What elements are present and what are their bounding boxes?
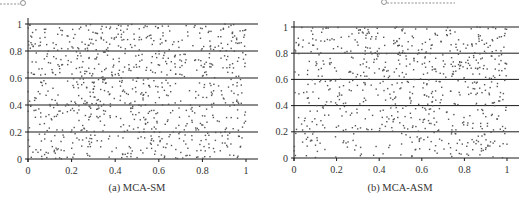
- data-point: [201, 48, 202, 49]
- data-point: [491, 115, 492, 116]
- data-point: [374, 72, 375, 73]
- data-point: [480, 58, 481, 59]
- data-point: [185, 54, 186, 55]
- data-point: [56, 116, 57, 117]
- data-point: [106, 49, 107, 50]
- data-point: [461, 62, 462, 63]
- data-point: [121, 39, 122, 40]
- data-point: [236, 99, 237, 100]
- data-point: [127, 39, 128, 40]
- data-point: [149, 35, 150, 36]
- data-point: [150, 38, 151, 39]
- data-point: [370, 38, 371, 39]
- data-point: [242, 52, 243, 53]
- data-point: [126, 156, 127, 157]
- data-point: [205, 26, 206, 27]
- data-point: [226, 127, 227, 128]
- data-point: [435, 100, 436, 101]
- data-point: [236, 85, 237, 86]
- data-point: [156, 121, 157, 122]
- data-point: [396, 107, 397, 108]
- data-point: [29, 127, 30, 128]
- data-point: [78, 48, 79, 49]
- data-point: [492, 40, 493, 41]
- data-point: [419, 138, 420, 139]
- data-point: [135, 87, 136, 88]
- data-point: [109, 115, 110, 116]
- data-point: [89, 143, 90, 144]
- data-point: [413, 58, 414, 59]
- data-point: [150, 70, 151, 71]
- data-point: [294, 150, 295, 151]
- data-point: [401, 45, 402, 46]
- data-point: [72, 85, 73, 86]
- data-point: [424, 108, 425, 109]
- data-point: [443, 73, 444, 74]
- data-point: [171, 145, 172, 146]
- data-point: [175, 74, 176, 75]
- data-point: [493, 142, 494, 143]
- data-point: [111, 37, 112, 38]
- data-point: [214, 77, 215, 78]
- data-point: [55, 148, 56, 149]
- data-point: [394, 28, 395, 29]
- data-point: [455, 44, 456, 45]
- data-point: [32, 152, 33, 153]
- data-point: [434, 124, 435, 125]
- data-point: [178, 47, 179, 48]
- x-tick-label: 1: [244, 165, 249, 176]
- data-point: [501, 70, 502, 71]
- data-point: [129, 103, 130, 104]
- data-point: [431, 101, 432, 102]
- data-point: [110, 117, 111, 118]
- data-point: [55, 158, 56, 159]
- data-point: [59, 66, 60, 67]
- data-point: [30, 48, 31, 49]
- data-point: [82, 61, 83, 62]
- data-point: [237, 118, 238, 119]
- data-point: [425, 56, 426, 57]
- data-point: [91, 103, 92, 104]
- data-point: [213, 117, 214, 118]
- data-point: [430, 123, 431, 124]
- data-point: [383, 37, 384, 38]
- data-point: [457, 80, 458, 81]
- data-point: [490, 87, 491, 88]
- data-point: [230, 25, 231, 26]
- data-point: [245, 111, 246, 112]
- data-point: [116, 28, 117, 29]
- data-point: [474, 88, 475, 89]
- data-point: [453, 61, 454, 62]
- data-point: [241, 137, 242, 138]
- data-point: [232, 84, 233, 85]
- data-point: [162, 35, 163, 36]
- data-point: [469, 115, 470, 116]
- data-point: [52, 146, 53, 147]
- data-point: [399, 38, 400, 39]
- data-point: [481, 40, 482, 41]
- data-point: [294, 71, 295, 72]
- data-point: [143, 129, 144, 130]
- data-point: [312, 45, 313, 46]
- data-point: [28, 44, 29, 45]
- data-point: [57, 94, 58, 95]
- data-point: [502, 126, 503, 127]
- data-point: [412, 93, 413, 94]
- data-point: [155, 72, 156, 73]
- data-point: [73, 87, 74, 88]
- data-point: [214, 151, 215, 152]
- data-point: [351, 33, 352, 34]
- caption-mca-sm: (a) MCA-SM: [109, 182, 167, 194]
- data-point: [57, 34, 58, 35]
- data-point: [467, 68, 468, 69]
- data-point: [469, 65, 470, 66]
- data-point: [422, 63, 423, 64]
- data-point: [40, 74, 41, 75]
- data-point: [40, 112, 41, 113]
- data-point: [81, 41, 82, 42]
- data-point: [44, 154, 45, 155]
- data-point: [344, 106, 345, 107]
- data-point: [59, 27, 60, 28]
- data-point: [220, 132, 221, 133]
- data-point: [307, 70, 308, 71]
